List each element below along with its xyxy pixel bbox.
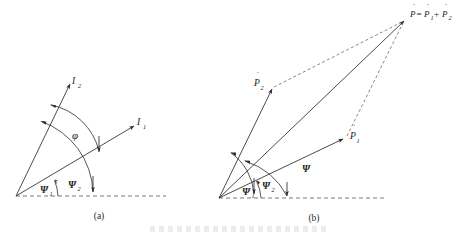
- label-P1-base: P: [349, 131, 356, 141]
- label-psi1-b: Ψ 1: [242, 186, 255, 199]
- label-psi2-a-base: Ψ: [68, 179, 77, 190]
- label-P2-sub: 2: [261, 84, 265, 91]
- label-I2-base: I: [71, 76, 76, 86]
- label-P2-base: P: [253, 78, 260, 88]
- arc-phi-a: [51, 105, 99, 151]
- label-phi-a: φ: [72, 129, 78, 141]
- label-P1-sub: 1: [357, 137, 360, 144]
- parallelogram-side-from-P2: [274, 21, 404, 87]
- clipped-caption-remnant: [150, 226, 330, 232]
- arc-psi-b-arrowhead: [244, 160, 250, 164]
- label-psi2-b: Ψ 2: [262, 180, 276, 193]
- label-I1: I 1: [136, 117, 146, 130]
- label-psi-b: Ψ: [302, 163, 311, 174]
- vector-I2: [16, 84, 70, 196]
- label-psi2-b-sub: 2: [272, 186, 276, 193]
- arc-phi-a-arrowhead: [50, 105, 56, 108]
- resultant-P1: P: [423, 9, 430, 19]
- label-psi1-a-sub: 1: [50, 190, 53, 197]
- caption-panel-b: (b): [308, 213, 319, 224]
- figure-root: I 2 I 1 Ψ 1 Ψ 2 φ (a): [0, 0, 471, 235]
- label-psi1-b-sub: 1: [252, 192, 255, 199]
- label-resultant-equation: ˙ P = ˙ P 1 + ˙ P 2: [409, 2, 453, 22]
- resultant-equals: =: [417, 9, 422, 19]
- vector-P-resultant: [219, 21, 404, 198]
- label-psi1-a: Ψ 1: [40, 184, 53, 197]
- resultant-plus: +: [434, 9, 439, 19]
- panel-b: ˙ P 2 ˙ P 1 ˙ P = ˙ P 1 + ˙ P 2: [219, 2, 453, 225]
- arc-psi2-b-arrowhead: [230, 152, 236, 156]
- label-I1-sub: 1: [143, 123, 146, 130]
- label-P2: ˙ P 2: [253, 70, 265, 91]
- label-psi1-b-base: Ψ: [242, 186, 251, 197]
- label-psi2-b-base: Ψ: [262, 180, 271, 191]
- caption-panel-a: (a): [94, 211, 105, 222]
- figure-canvas: I 2 I 1 Ψ 1 Ψ 2 φ (a): [0, 0, 471, 235]
- panel-a: I 2 I 1 Ψ 1 Ψ 2 φ (a): [16, 76, 166, 222]
- resultant-P2: P: [441, 9, 448, 19]
- label-psi2-a: Ψ 2: [68, 179, 82, 192]
- label-I2: I 2: [71, 76, 82, 89]
- parallelogram-side-from-P1: [347, 21, 404, 136]
- arc-psi2-a-arrowhead: [41, 121, 47, 125]
- label-psi1-a-base: Ψ: [40, 184, 49, 195]
- vector-P1: [219, 139, 343, 198]
- label-psi2-a-sub: 2: [78, 185, 82, 192]
- resultant-P: P: [409, 9, 416, 19]
- label-P1: ˙ P 1: [349, 123, 360, 144]
- label-I2-sub: 2: [78, 82, 82, 89]
- label-I1-base: I: [136, 117, 141, 127]
- resultant-P2-sub: 2: [449, 14, 453, 21]
